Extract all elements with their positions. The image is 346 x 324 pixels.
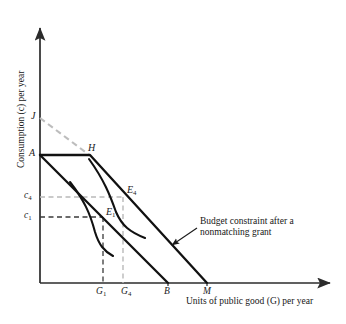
budget-constraint-figure: Consumption (c) per year Units of public…	[0, 0, 346, 324]
x-tick-label-G4-base: G	[121, 286, 128, 296]
y-tick-label-c1: c1	[24, 210, 32, 221]
point-label-H: H	[88, 142, 95, 153]
callout-line-1: Budget constraint after a	[200, 216, 294, 227]
x-tick-label-M: M	[203, 286, 211, 297]
y-axis-title: Consumption (c) per year	[16, 71, 27, 168]
callout-line-2: nonmatching grant	[200, 227, 294, 238]
point-label-E4-sub: 4	[133, 189, 136, 196]
diagram-canvas	[0, 0, 346, 324]
y-tick-label-c4: c4	[24, 190, 32, 201]
indifference-curve-E4	[89, 159, 145, 238]
y-tick-label-c1-sub: 1	[28, 214, 31, 221]
x-axis-title: Units of public good (G) per year	[186, 296, 313, 307]
callout-arrow-line	[172, 228, 197, 245]
x-tick-label-G1-base: G	[96, 286, 103, 296]
x-tick-label-G1: G1	[96, 286, 106, 297]
dashed-extension-J-to-H	[40, 118, 92, 157]
budget-constraint-callout-text: Budget constraint after a nonmatching gr…	[200, 216, 294, 237]
point-label-E1-sub: 1	[112, 211, 115, 218]
point-label-E4: E4	[127, 184, 137, 195]
point-label-A: A	[29, 147, 35, 158]
x-tick-label-B: B	[164, 286, 170, 297]
point-label-E1: E1	[106, 206, 116, 217]
point-label-J: J	[31, 110, 35, 121]
y-tick-label-c4-sub: 4	[28, 194, 31, 201]
x-tick-label-G4-sub: 4	[128, 290, 131, 297]
x-tick-label-G1-sub: 1	[103, 290, 106, 297]
indifference-curve-E1	[70, 182, 113, 256]
x-tick-label-G4: G4	[121, 286, 131, 297]
